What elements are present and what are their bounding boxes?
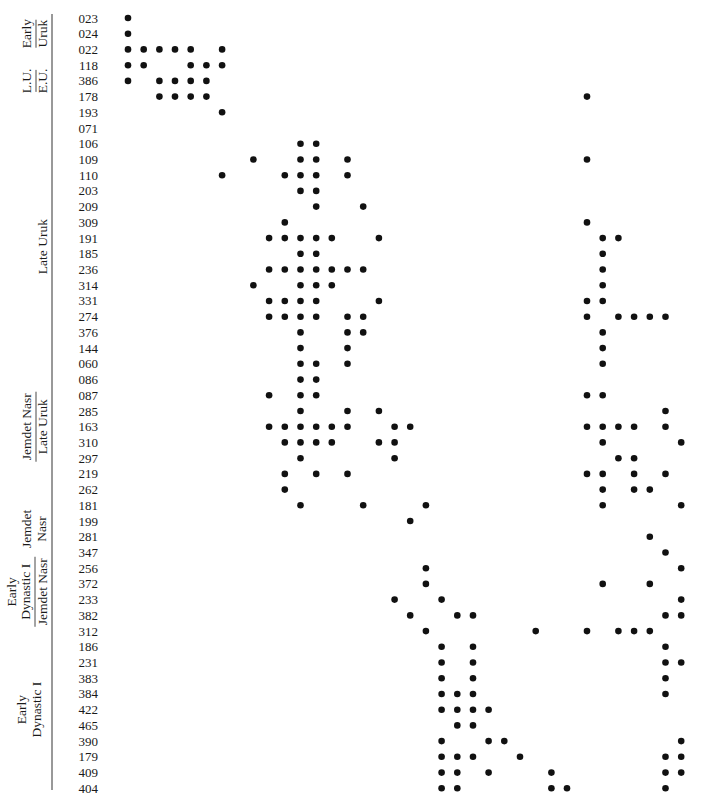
presence-dot [203, 93, 210, 100]
row-label: 109 [79, 152, 99, 167]
presence-dot [313, 282, 320, 289]
row-label: 384 [79, 686, 99, 701]
presence-dot [297, 313, 304, 320]
row-label: 331 [79, 293, 99, 308]
presence-dot [599, 581, 606, 588]
presence-dot [313, 203, 320, 210]
seriation-diagram: EarlyUrukL.U.E.U.Late UrukJemdet NasrLat… [0, 0, 702, 804]
presence-dot [344, 329, 351, 336]
presence-dot [313, 471, 320, 478]
presence-dot [584, 392, 591, 399]
row-label: 274 [79, 309, 99, 324]
presence-dot [485, 738, 492, 745]
presence-dot [313, 313, 320, 320]
row-label: 106 [79, 136, 99, 151]
presence-dot [584, 423, 591, 430]
presence-dot [584, 219, 591, 226]
presence-dot [376, 235, 383, 242]
presence-dot [584, 298, 591, 305]
row-label: 233 [79, 592, 99, 607]
presence-dot [470, 675, 477, 682]
presence-dot [599, 439, 606, 446]
presence-dot [599, 361, 606, 368]
presence-dot [615, 455, 622, 462]
row-label: 465 [79, 718, 99, 733]
presence-dot [313, 172, 320, 179]
row-label: 203 [79, 183, 99, 198]
presence-dot [678, 612, 685, 619]
presence-dot [423, 565, 430, 572]
presence-dot [140, 62, 147, 69]
presence-dot [454, 706, 461, 713]
row-label: 312 [79, 624, 99, 639]
presence-dot [584, 93, 591, 100]
presence-dot [647, 486, 654, 493]
presence-dot [615, 628, 622, 635]
row-label: 191 [79, 231, 99, 246]
presence-dot [615, 423, 622, 430]
presence-dot [297, 439, 304, 446]
presence-dot [470, 706, 477, 713]
presence-dot [678, 439, 685, 446]
presence-dot [344, 471, 351, 478]
presence-dot [662, 675, 669, 682]
presence-dot [329, 423, 336, 430]
presence-dot [297, 376, 304, 383]
presence-dot [438, 754, 445, 761]
presence-dot [219, 172, 226, 179]
row-label: 181 [79, 498, 99, 513]
presence-dot [407, 612, 414, 619]
presence-dot [662, 549, 669, 556]
presence-dot [678, 565, 685, 572]
presence-dot [297, 282, 304, 289]
period-labels: EarlyUrukL.U.E.U.Late UrukJemdet NasrLat… [4, 19, 50, 738]
row-label: 297 [79, 451, 99, 466]
presence-dot [297, 455, 304, 462]
presence-dot [140, 46, 147, 53]
presence-dot [360, 502, 367, 509]
presence-dot [344, 345, 351, 352]
presence-dot [297, 392, 304, 399]
presence-dot [599, 486, 606, 493]
presence-dot [438, 706, 445, 713]
presence-dot [266, 392, 273, 399]
presence-dot [599, 392, 606, 399]
presence-dot [187, 78, 194, 85]
presence-dot [297, 266, 304, 273]
presence-dot [156, 46, 163, 53]
presence-dot [219, 46, 226, 53]
presence-dot [313, 156, 320, 163]
presence-dot [266, 298, 273, 305]
presence-dot [454, 769, 461, 776]
presence-dot [313, 188, 320, 195]
row-label: 199 [79, 514, 99, 529]
row-label: 285 [79, 404, 99, 419]
presence-dot [564, 785, 571, 792]
presence-dot [599, 329, 606, 336]
presence-dot [678, 769, 685, 776]
presence-dot [203, 62, 210, 69]
presence-dot [282, 219, 289, 226]
presence-dot [678, 502, 685, 509]
presence-dot [376, 439, 383, 446]
row-label: 022 [79, 42, 99, 57]
presence-dot [584, 628, 591, 635]
presence-dot [282, 423, 289, 430]
row-label: 372 [79, 576, 99, 591]
row-label: 376 [79, 325, 99, 340]
presence-dot [266, 423, 273, 430]
presence-dot [313, 235, 320, 242]
presence-dot [470, 659, 477, 666]
presence-dot [662, 754, 669, 761]
presence-dot [250, 282, 257, 289]
row-label: 231 [79, 655, 99, 670]
presence-dot [631, 423, 638, 430]
presence-dot [125, 30, 132, 37]
presence-dot [313, 141, 320, 148]
presence-dot [407, 423, 414, 430]
row-label: 118 [79, 58, 98, 73]
presence-dot [125, 46, 132, 53]
presence-dot [485, 706, 492, 713]
presence-dot [548, 785, 555, 792]
presence-dot [297, 502, 304, 509]
